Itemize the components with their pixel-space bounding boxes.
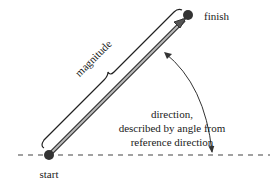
direction-label-line1: direction, bbox=[151, 108, 193, 120]
direction-label-line3: reference direction bbox=[131, 136, 214, 148]
start-label: start bbox=[40, 168, 59, 180]
vector-diagram: finish start magnitude direction, descri… bbox=[0, 0, 278, 186]
vector-arrow bbox=[49, 18, 186, 155]
direction-label-line2: described by angle from bbox=[119, 122, 226, 134]
finish-label: finish bbox=[204, 10, 230, 22]
start-point-icon bbox=[44, 150, 54, 160]
finish-point-icon bbox=[183, 10, 193, 20]
